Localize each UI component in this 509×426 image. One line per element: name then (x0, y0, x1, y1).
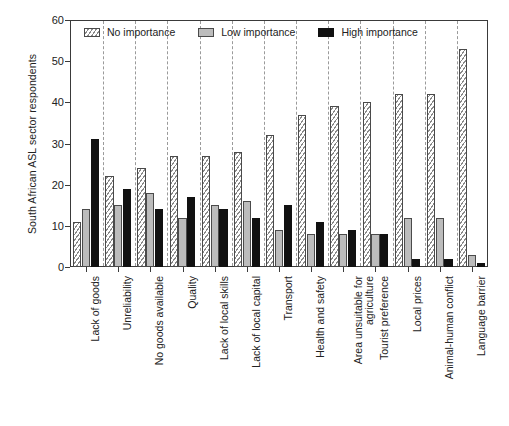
y-tick-label: 30 (0, 138, 64, 150)
x-tick-label: Quality (187, 276, 198, 396)
bar (316, 222, 324, 267)
bar (234, 152, 242, 267)
bar (266, 135, 274, 267)
bar-group (134, 20, 166, 267)
x-tick-label: Lack of local skills (219, 276, 230, 396)
x-tick-label: Lack of goods (90, 276, 101, 396)
bar-group (70, 20, 102, 267)
x-tick-mark (279, 267, 280, 272)
legend-item-high-importance: High importance (318, 26, 417, 38)
black-swatch-icon (318, 28, 334, 37)
bar (91, 139, 99, 267)
y-tick-label: 40 (0, 96, 64, 108)
bar-group (102, 20, 134, 267)
bar (146, 193, 154, 267)
bar (371, 234, 379, 267)
x-tick-label: Animal-human conflict (444, 276, 455, 396)
x-tick-mark (118, 267, 119, 272)
x-tick-mark (86, 267, 87, 272)
legend-item-no-importance: No importance (84, 26, 175, 38)
x-tick-mark (472, 267, 473, 272)
bar (155, 209, 163, 267)
legend-label-low-importance: Low importance (221, 26, 295, 38)
bar (73, 222, 81, 267)
legend-label-high-importance: High importance (341, 26, 417, 38)
bar (330, 106, 338, 267)
y-tick-label: 50 (0, 55, 64, 67)
bar (363, 102, 371, 267)
y-tick-label: 60 (0, 14, 64, 26)
bar (284, 205, 292, 267)
bar (307, 234, 315, 267)
bar (219, 209, 227, 267)
bar (339, 234, 347, 267)
gray-swatch-icon (198, 28, 214, 37)
bar-group (359, 20, 391, 267)
bar (123, 189, 131, 267)
bar (243, 201, 251, 267)
legend-item-low-importance: Low importance (198, 26, 295, 38)
x-tick-mark (440, 267, 441, 272)
bar (395, 94, 403, 267)
bar (202, 156, 210, 267)
bar (427, 94, 435, 267)
bar (436, 218, 444, 267)
bar (380, 234, 388, 267)
bar (211, 205, 219, 267)
x-tick-label: No goods available (154, 276, 165, 396)
bar (252, 218, 260, 267)
x-tick-mark (375, 267, 376, 272)
bar (459, 49, 467, 267)
bar-group (263, 20, 295, 267)
x-tick-label: Lack of local capital (251, 276, 262, 396)
bar-group (424, 20, 456, 267)
bar (477, 263, 485, 267)
x-tick-mark (247, 267, 248, 272)
y-tick-label: 0 (0, 261, 64, 273)
x-tick-mark (343, 267, 344, 272)
x-tick-label: Area unsuitable foragriculture (353, 276, 375, 384)
x-tick-label: Health and safety (315, 276, 326, 396)
x-tick-label: Tourist preference (379, 276, 390, 396)
y-tick-mark (65, 267, 70, 268)
bar (404, 218, 412, 267)
bar (444, 259, 452, 267)
bar-group (166, 20, 198, 267)
bar-group (295, 20, 327, 267)
legend-label-no-importance: No importance (107, 26, 175, 38)
chart-legend: No importance Low importance High import… (84, 26, 418, 38)
hatched-swatch-icon (84, 28, 100, 37)
bar-group (327, 20, 359, 267)
x-tick-label: Language barrier (476, 276, 487, 396)
bar (187, 197, 195, 267)
y-tick-label: 10 (0, 220, 64, 232)
bar (178, 218, 186, 267)
bar (468, 255, 476, 267)
bar (82, 209, 90, 267)
x-tick-label: Transport (283, 276, 294, 396)
bar-group (456, 20, 488, 267)
x-tick-mark (183, 267, 184, 272)
bar (348, 230, 356, 267)
bar (170, 156, 178, 267)
x-tick-label: Local prices (412, 276, 423, 396)
bar-chart-figure: South African ASL sector respondents 010… (0, 0, 509, 426)
bar-groups (70, 20, 488, 267)
x-tick-mark (215, 267, 216, 272)
bar (412, 259, 420, 267)
bar (298, 115, 306, 267)
bar-group (392, 20, 424, 267)
x-tick-mark (150, 267, 151, 272)
bar (105, 176, 113, 267)
bar (275, 230, 283, 267)
x-tick-mark (408, 267, 409, 272)
bar-group (199, 20, 231, 267)
bar (137, 168, 145, 267)
bar-group (231, 20, 263, 267)
x-tick-label: Unreliability (122, 276, 133, 396)
x-tick-mark (311, 267, 312, 272)
bar (114, 205, 122, 267)
y-tick-label: 20 (0, 179, 64, 191)
